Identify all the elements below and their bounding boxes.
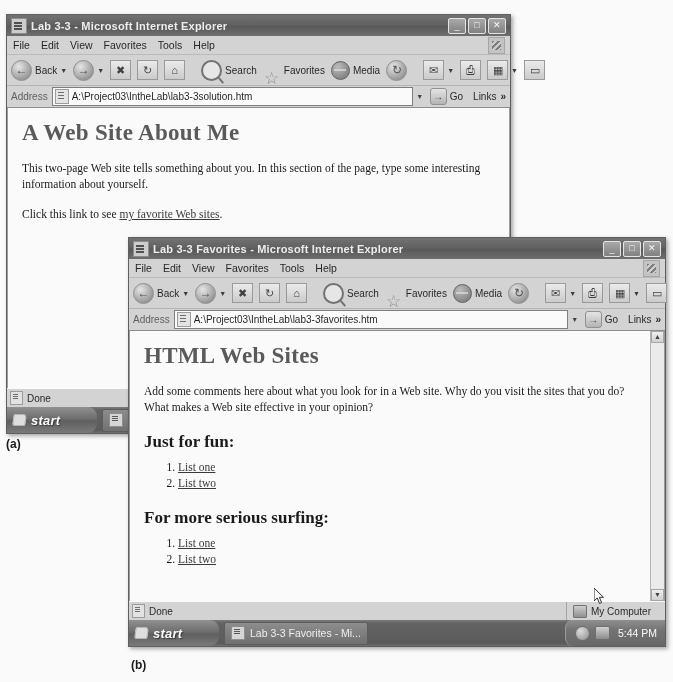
chevron-down-icon[interactable]: ▼	[447, 67, 454, 74]
discuss-button[interactable]: ▭	[646, 283, 667, 303]
stop-button[interactable]: ✖	[232, 283, 253, 303]
menubar-b[interactable]: File Edit View Favorites Tools Help	[129, 259, 665, 278]
overflow-chevron-icon[interactable]: »	[655, 314, 661, 325]
media-button[interactable]: Media	[453, 284, 502, 303]
home-button[interactable]: ⌂	[164, 60, 185, 80]
forward-button[interactable]: → ▼	[73, 60, 104, 81]
window-title-b: Lab 3-3 Favorites - Microsoft Internet E…	[153, 243, 603, 255]
clock[interactable]: 5:44 PM	[618, 627, 657, 639]
window-controls-a[interactable]: _ □ ✕	[448, 18, 508, 34]
status-page-icon	[10, 391, 23, 405]
menu-item-file[interactable]: File	[13, 39, 30, 51]
chevron-down-icon[interactable]: ▼	[569, 290, 576, 297]
back-button[interactable]: ← Back ▼	[133, 283, 189, 304]
menubar-a[interactable]: File Edit View Favorites Tools Help	[7, 36, 510, 55]
maximize-button[interactable]: □	[623, 241, 641, 257]
start-button-a[interactable]: start	[7, 407, 97, 433]
vertical-scrollbar[interactable]: ▲ ▼	[650, 331, 664, 601]
menu-item-help[interactable]: Help	[315, 262, 337, 274]
refresh-button[interactable]: ↻	[137, 60, 158, 80]
toolbar-a[interactable]: ← Back ▼ → ▼ ✖ ↻ ⌂ Search Favorites Medi…	[7, 55, 510, 86]
edit-button[interactable]: ▦ ▼	[609, 283, 640, 303]
system-tray[interactable]: 5:44 PM	[565, 620, 665, 646]
status-pane-b: Done	[132, 604, 173, 618]
menu-item-file[interactable]: File	[135, 262, 152, 274]
print-button[interactable]: ⎙	[460, 60, 481, 80]
search-button[interactable]: Search	[201, 60, 257, 81]
links-label[interactable]: Links	[628, 314, 651, 325]
back-button[interactable]: ← Back ▼	[11, 60, 67, 81]
page-paragraph-b: Add some comments here about what you lo…	[144, 383, 650, 416]
overflow-chevron-icon[interactable]: »	[500, 91, 506, 102]
close-button[interactable]: ✕	[643, 241, 661, 257]
links-label[interactable]: Links	[473, 91, 496, 102]
addressbar-a[interactable]: Address A:\Project03\IntheLab\lab3-3solu…	[7, 86, 510, 108]
address-input[interactable]: A:\Project03\IntheLab\lab3-3favorites.ht…	[174, 310, 568, 329]
printer-glyph: ⎙	[583, 284, 602, 302]
address-dropdown-icon[interactable]: ▼	[413, 88, 427, 105]
list-link-1[interactable]: List one	[178, 461, 215, 473]
chevron-down-icon[interactable]: ▼	[219, 290, 226, 297]
tray-network-icon[interactable]	[595, 626, 610, 640]
list-link-2[interactable]: List two	[178, 477, 216, 489]
history-button[interactable]: ↻	[386, 60, 407, 81]
scroll-up-arrow-icon[interactable]: ▲	[651, 331, 664, 343]
window-controls-b[interactable]: _ □ ✕	[603, 241, 663, 257]
menu-item-tools[interactable]: Tools	[280, 262, 305, 274]
home-button[interactable]: ⌂	[286, 283, 307, 303]
list-link-3[interactable]: List one	[178, 537, 215, 549]
chevron-down-icon[interactable]: ▼	[97, 67, 104, 74]
menu-item-favorites[interactable]: Favorites	[226, 262, 269, 274]
tray-volume-icon[interactable]	[575, 626, 590, 641]
minimize-button[interactable]: _	[448, 18, 466, 34]
menu-item-tools[interactable]: Tools	[158, 39, 183, 51]
refresh-button[interactable]: ↻	[259, 283, 280, 303]
scroll-down-arrow-icon[interactable]: ▼	[651, 589, 664, 601]
address-input[interactable]: A:\Project03\IntheLab\lab3-3solution.htm	[52, 87, 413, 106]
mail-button[interactable]: ✉ ▼	[423, 60, 454, 80]
page-icon	[177, 312, 191, 327]
forward-button[interactable]: → ▼	[195, 283, 226, 304]
browser-window-b[interactable]: Lab 3-3 Favorites - Microsoft Internet E…	[128, 237, 666, 647]
go-button[interactable]: Go	[430, 88, 463, 105]
menu-item-view[interactable]: View	[70, 39, 93, 51]
start-button-b[interactable]: start	[129, 620, 219, 646]
favorites-button[interactable]: Favorites	[263, 65, 325, 76]
stop-button[interactable]: ✖	[110, 60, 131, 80]
favorites-button[interactable]: Favorites	[385, 288, 447, 299]
menu-item-view[interactable]: View	[192, 262, 215, 274]
minimize-button[interactable]: _	[603, 241, 621, 257]
search-button[interactable]: Search	[323, 283, 379, 304]
chevron-down-icon[interactable]: ▼	[182, 290, 189, 297]
chevron-down-icon[interactable]: ▼	[511, 67, 518, 74]
chevron-down-icon[interactable]: ▼	[60, 67, 67, 74]
list-link-4[interactable]: List two	[178, 553, 216, 565]
chevron-down-icon[interactable]: ▼	[633, 290, 640, 297]
addressbar-b[interactable]: Address A:\Project03\IntheLab\lab3-3favo…	[129, 309, 665, 331]
history-button[interactable]: ↻	[508, 283, 529, 304]
titlebar-b[interactable]: Lab 3-3 Favorites - Microsoft Internet E…	[129, 238, 665, 259]
edit-button[interactable]: ▦ ▼	[487, 60, 518, 80]
media-button[interactable]: Media	[331, 61, 380, 80]
mail-button[interactable]: ✉ ▼	[545, 283, 576, 303]
list-item: List two	[178, 476, 650, 492]
menu-item-edit[interactable]: Edit	[163, 262, 181, 274]
printer-glyph: ⎙	[461, 61, 480, 79]
titlebar-a[interactable]: Lab 3-3 - Microsoft Internet Explorer _ …	[7, 15, 510, 36]
menu-item-edit[interactable]: Edit	[41, 39, 59, 51]
toolbar-b[interactable]: ← Back ▼ → ▼ ✖ ↻ ⌂ Search Favorites Medi…	[129, 278, 665, 309]
favorite-web-sites-link[interactable]: my favorite Web sites	[119, 208, 219, 220]
menu-item-favorites[interactable]: Favorites	[104, 39, 147, 51]
minimize-glyph: _	[604, 243, 620, 255]
discuss-glyph: ▭	[647, 284, 666, 302]
close-button[interactable]: ✕	[488, 18, 506, 34]
maximize-button[interactable]: □	[468, 18, 486, 34]
discuss-icon: ▭	[524, 60, 545, 80]
taskbar-b[interactable]: start Lab 3-3 Favorites - Mi... 5:44 PM	[129, 620, 665, 646]
go-button[interactable]: Go	[585, 311, 618, 328]
taskbar-item-lab33-favorites[interactable]: Lab 3-3 Favorites - Mi...	[224, 622, 368, 645]
address-dropdown-icon[interactable]: ▼	[568, 311, 582, 328]
discuss-button[interactable]: ▭	[524, 60, 545, 80]
menu-item-help[interactable]: Help	[193, 39, 215, 51]
print-button[interactable]: ⎙	[582, 283, 603, 303]
